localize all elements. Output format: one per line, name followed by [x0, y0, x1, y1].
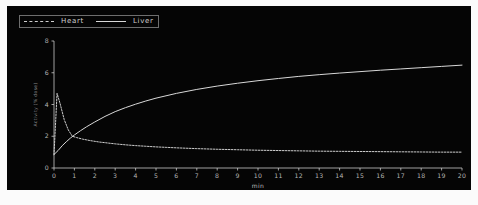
x-tick-label: 2: [93, 172, 97, 179]
x-tick-label: 13: [315, 172, 323, 179]
axes-group: [52, 41, 463, 171]
y-tick-label: 2: [45, 132, 49, 139]
x-tick-label: 5: [154, 172, 158, 179]
x-axis-label: min: [252, 182, 265, 189]
y-tick-label: 0: [45, 164, 49, 171]
x-tick-label: 3: [113, 172, 117, 179]
plot-area: 0246801234567891011121314151617181920min…: [7, 6, 471, 190]
x-tick-label: 9: [235, 172, 239, 179]
x-tick-label: 14: [335, 172, 343, 179]
x-tick-label: 6: [174, 172, 178, 179]
x-tick-label: 19: [437, 172, 445, 179]
x-tick-label: 0: [52, 172, 56, 179]
x-tick-label: 11: [274, 172, 282, 179]
plot-figure: Heart Liver 0246801234567891011121314151…: [7, 6, 471, 190]
x-tick-label: 18: [417, 172, 425, 179]
x-tick-label: 12: [295, 172, 303, 179]
axis-labels-group: 0246801234567891011121314151617181920min…: [33, 37, 466, 189]
x-tick-label: 7: [195, 172, 199, 179]
series-line-heart: [54, 93, 462, 154]
x-tick-label: 16: [376, 172, 384, 179]
chart-svg: 0246801234567891011121314151617181920min…: [7, 6, 471, 190]
x-tick-label: 4: [133, 172, 137, 179]
x-tick-label: 17: [397, 172, 405, 179]
x-tick-label: 10: [254, 172, 262, 179]
y-tick-label: 6: [45, 69, 49, 76]
x-tick-label: 20: [458, 172, 466, 179]
x-tick-label: 15: [356, 172, 364, 179]
y-tick-label: 8: [45, 37, 49, 44]
series-line-liver: [54, 65, 462, 154]
x-tick-label: 1: [72, 172, 76, 179]
y-tick-label: 4: [45, 101, 49, 108]
screenshot-root: Heart Liver 0246801234567891011121314151…: [0, 0, 478, 205]
y-axis-label: Activity (% dose): [33, 82, 38, 126]
x-tick-label: 8: [215, 172, 219, 179]
series-group: [54, 65, 462, 154]
